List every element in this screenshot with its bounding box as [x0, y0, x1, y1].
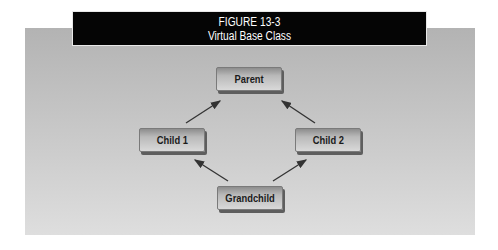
- arrow-child1-to-parent: [186, 101, 220, 123]
- arrow-child2-to-parent: [282, 101, 315, 123]
- node-child-1-label: Child 1: [156, 134, 187, 146]
- node-parent: Parent: [216, 67, 282, 91]
- node-child-2-label: Child 2: [312, 134, 343, 146]
- node-child-1: Child 1: [139, 128, 205, 152]
- node-parent-label: Parent: [234, 73, 263, 85]
- arrow-grandchild-to-child1: [195, 160, 228, 181]
- node-child-2: Child 2: [295, 128, 361, 152]
- arrows-layer: [0, 0, 498, 250]
- arrow-grandchild-to-child2: [273, 160, 306, 181]
- node-grandchild-label: Grandchild: [225, 192, 274, 204]
- node-grandchild: Grandchild: [217, 186, 283, 210]
